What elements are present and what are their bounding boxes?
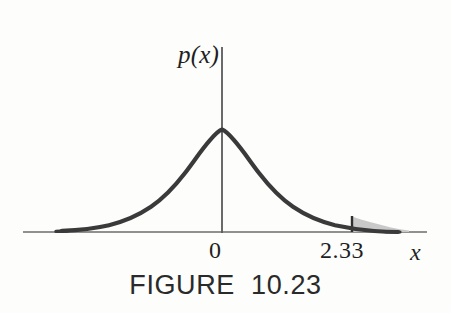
x-tick-label-origin: 0: [209, 238, 221, 262]
x-axis-label: x: [410, 240, 421, 264]
x-tick-label-cutoff: 2.33: [320, 238, 364, 262]
figure-container: p(x) 0 2.33 x FIGURE 10.23: [0, 0, 451, 313]
y-axis-label: p(x): [178, 42, 219, 67]
figure-caption: FIGURE 10.23: [0, 272, 451, 299]
left-tail-axis-merge: [56, 231, 68, 232]
normal-curve-plot: [0, 0, 451, 313]
probability-density-curve: [62, 130, 398, 232]
